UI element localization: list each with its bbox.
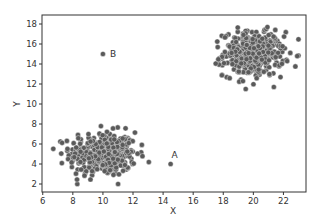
y-tick-label: 14 xyxy=(26,59,37,69)
y-tick-label: 8 xyxy=(32,119,37,129)
y-axis-ticks: 24681012141618 xyxy=(26,19,42,189)
y-tick-label: 16 xyxy=(26,39,37,49)
x-tick-label: 6 xyxy=(40,196,45,206)
x-axis-label: X xyxy=(170,206,176,216)
y-tick-label: 2 xyxy=(32,179,37,189)
y-tick-label: 10 xyxy=(26,99,37,109)
annotated-point-b xyxy=(100,51,105,56)
x-tick-label: 8 xyxy=(70,196,75,206)
x-tick-label: 12 xyxy=(128,196,139,206)
y-tick-label: 4 xyxy=(32,159,37,169)
y-tick-label: 12 xyxy=(26,79,37,89)
annotation-label-a: A xyxy=(172,150,179,160)
x-tick-label: 10 xyxy=(98,196,109,206)
x-tick-label: 18 xyxy=(218,196,229,206)
scatter-chart: AB 6810121416182022 24681012141618 X Y xyxy=(0,0,321,224)
x-tick-label: 20 xyxy=(248,196,259,206)
x-tick-label: 22 xyxy=(278,196,289,206)
y-axis-label: Y xyxy=(12,101,22,108)
annotation-label-b: B xyxy=(110,49,116,59)
x-axis-ticks: 6810121416182022 xyxy=(40,192,289,206)
data-points xyxy=(51,24,301,186)
x-tick-label: 14 xyxy=(158,196,169,206)
y-tick-label: 18 xyxy=(26,19,37,29)
annotated-point-a xyxy=(168,161,173,166)
x-tick-label: 16 xyxy=(188,196,199,206)
y-tick-label: 6 xyxy=(32,139,37,149)
